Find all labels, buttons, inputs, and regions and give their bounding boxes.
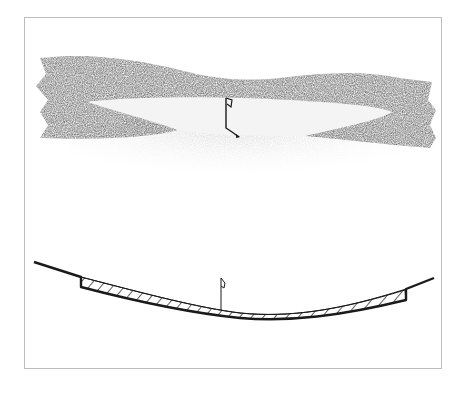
plan-view (36, 56, 436, 190)
ground-line (34, 262, 434, 319)
flag-icon (221, 278, 225, 310)
section-view (34, 262, 434, 319)
golf-green-illustration (0, 0, 463, 393)
